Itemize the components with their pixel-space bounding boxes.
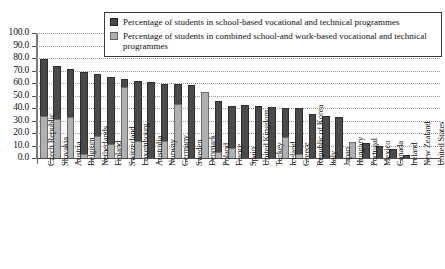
x-tick-mark bbox=[252, 159, 253, 164]
x-tick-mark bbox=[144, 159, 145, 164]
x-tick-mark bbox=[292, 159, 293, 164]
x-tick-mark bbox=[50, 159, 51, 164]
x-tick-mark bbox=[185, 159, 186, 164]
legend-swatch-school-based-icon bbox=[110, 18, 118, 26]
x-tick-mark bbox=[279, 159, 280, 164]
x-tick-mark bbox=[104, 159, 105, 164]
x-tick-mark bbox=[359, 159, 360, 164]
x-tick-mark bbox=[225, 159, 226, 164]
legend-swatch-combined-icon bbox=[110, 32, 118, 40]
x-tick-mark bbox=[373, 159, 374, 164]
legend-label: Percentage of students in school-based v… bbox=[123, 17, 399, 28]
chart-legend: Percentage of students in school-based v… bbox=[104, 12, 442, 57]
legend-item: Percentage of students in school-based v… bbox=[110, 17, 435, 28]
x-tick-label: United States bbox=[437, 122, 445, 166]
x-tick-mark bbox=[265, 159, 266, 164]
x-tick-mark bbox=[158, 159, 159, 164]
x-tick-mark bbox=[306, 159, 307, 164]
x-tick-mark bbox=[171, 159, 172, 164]
x-tick-mark bbox=[400, 159, 401, 164]
x-tick-mark bbox=[64, 159, 65, 164]
x-tick-mark bbox=[77, 159, 78, 164]
legend-item: Percentage of students in combined schoo… bbox=[110, 31, 435, 52]
x-tick-mark bbox=[239, 159, 240, 164]
x-tick-mark bbox=[37, 159, 38, 164]
x-tick-mark bbox=[333, 159, 334, 164]
x-tick-mark bbox=[319, 159, 320, 164]
x-tick-label: United Kingdom bbox=[262, 110, 271, 166]
x-tick-mark bbox=[91, 159, 92, 164]
x-tick-mark bbox=[131, 159, 132, 164]
x-tick-mark bbox=[413, 159, 414, 164]
legend-label: Percentage of students in combined schoo… bbox=[123, 31, 435, 52]
x-tick-mark bbox=[198, 159, 199, 164]
x-tick-label: Republic of Korea bbox=[316, 105, 325, 166]
x-tick-mark bbox=[386, 159, 387, 164]
x-tick-mark bbox=[346, 159, 347, 164]
bar-chart: 0.010.020.030.040.050.060.070.080.090.01… bbox=[0, 0, 445, 269]
x-tick-mark bbox=[427, 159, 428, 164]
x-tick-mark bbox=[212, 159, 213, 164]
x-tick-mark bbox=[118, 159, 119, 164]
